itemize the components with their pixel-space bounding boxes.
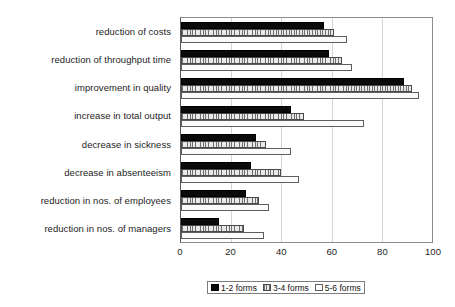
category-label: reduction in nos. of managers [0, 215, 177, 243]
legend-item-3-4-forms: 3-4 forms [263, 283, 309, 293]
bar [181, 36, 347, 43]
x-axis-tick-label: 100 [425, 246, 441, 257]
legend-label: 3-4 forms [273, 283, 309, 293]
category-axis-labels: reduction of costs reduction of throughp… [0, 17, 177, 243]
bar [181, 148, 291, 155]
bar [181, 85, 412, 92]
bar [181, 204, 269, 211]
bar [181, 64, 352, 71]
chart-legend: 1-2 forms 3-4 forms 5-6 forms [207, 281, 365, 294]
bar [181, 106, 291, 113]
bar [181, 162, 251, 169]
bar-group [181, 74, 432, 102]
legend-swatch-icon [263, 284, 271, 291]
bar-group [181, 18, 432, 46]
x-axis-tick-label: 0 [177, 246, 182, 257]
bar-group [181, 130, 432, 158]
bar-group [181, 214, 432, 242]
bar [181, 197, 259, 204]
bar [181, 22, 324, 29]
bar [181, 141, 266, 148]
x-axis-tick-label: 20 [225, 246, 236, 257]
legend-item-1-2-forms: 1-2 forms [211, 283, 257, 293]
bar-group [181, 46, 432, 74]
category-label: increase in total output [0, 102, 177, 130]
plot-area [180, 17, 433, 243]
bar [181, 176, 299, 183]
bar [181, 134, 256, 141]
x-axis-tick-label: 60 [327, 246, 338, 257]
legend-swatch-icon [315, 284, 323, 291]
category-label: decrease in absenteeism [0, 158, 177, 186]
category-label: reduction in nos. of employees [0, 187, 177, 215]
legend-label: 1-2 forms [221, 283, 257, 293]
bar-group [181, 186, 432, 214]
legend-label: 5-6 forms [325, 283, 361, 293]
category-label: improvement in quality [0, 74, 177, 102]
bar-group [181, 102, 432, 130]
bar [181, 92, 419, 99]
chart-container: reduction of costs reduction of throughp… [0, 0, 455, 307]
chart-title [110, 0, 360, 6]
bar [181, 50, 329, 57]
bar [181, 120, 364, 127]
bar-groups [181, 18, 432, 242]
bar [181, 225, 244, 232]
bar [181, 218, 219, 225]
legend-item-5-6-forms: 5-6 forms [315, 283, 361, 293]
bar [181, 113, 304, 120]
bar [181, 78, 404, 85]
x-axis-tick-label: 40 [276, 246, 287, 257]
bar [181, 169, 281, 176]
bar [181, 190, 246, 197]
bar [181, 232, 264, 239]
bar-group [181, 158, 432, 186]
category-label: decrease in sickness [0, 130, 177, 158]
legend-swatch-icon [211, 284, 219, 291]
bar [181, 57, 342, 64]
bar [181, 29, 334, 36]
category-label: reduction of throughput time [0, 45, 177, 73]
category-label: reduction of costs [0, 17, 177, 45]
x-axis-tick-label: 80 [377, 246, 388, 257]
x-axis: 020406080100 [180, 244, 433, 260]
